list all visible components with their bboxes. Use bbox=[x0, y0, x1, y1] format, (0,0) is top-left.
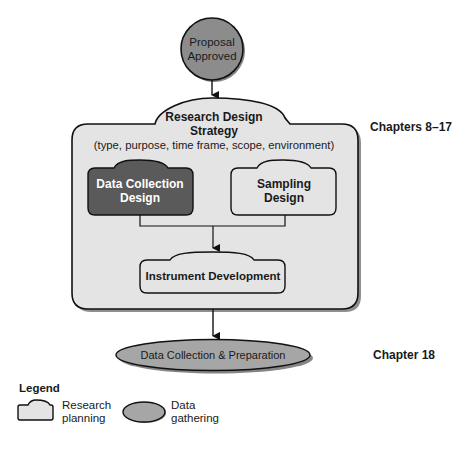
data-collection-preparation-label: Data Collection & Preparation bbox=[141, 349, 286, 361]
sampling-design-line2: Design bbox=[264, 191, 304, 205]
legend-data-line2: gathering bbox=[171, 412, 219, 424]
legend-title: Legend bbox=[19, 382, 60, 394]
data-collection-design-box: Data Collection Design bbox=[88, 160, 193, 215]
legend-research-line1: Research bbox=[62, 399, 111, 411]
legend-item-research-planning: Research planning bbox=[18, 399, 111, 424]
strategy-subtitle: (type, purpose, time frame, scope, envir… bbox=[94, 139, 335, 151]
data-collection-design-line1: Data Collection bbox=[96, 177, 183, 191]
strategy-title-line2: Strategy bbox=[190, 124, 238, 138]
chapter-18-label: Chapter 18 bbox=[373, 348, 435, 362]
strategy-title-line1: Research Design bbox=[165, 110, 262, 124]
data-gathering-ellipse-icon bbox=[123, 402, 165, 422]
legend-item-data-gathering: Data gathering bbox=[123, 399, 219, 424]
legend-data-line1: Data bbox=[171, 399, 196, 411]
data-collection-preparation-node: Data Collection & Preparation bbox=[116, 340, 313, 374]
sampling-design-box: Sampling Design bbox=[231, 160, 336, 215]
proposal-approved-node: Proposal Approved bbox=[181, 18, 245, 82]
proposal-line2: Approved bbox=[187, 50, 236, 62]
sampling-design-line1: Sampling bbox=[257, 177, 311, 191]
chapters-8-17-label: Chapters 8–17 bbox=[370, 120, 452, 134]
legend: Legend Research planning Data gathering bbox=[18, 382, 219, 424]
research-planning-shape-icon bbox=[18, 400, 53, 420]
legend-research-line2: planning bbox=[62, 412, 105, 424]
data-collection-design-line2: Design bbox=[120, 191, 160, 205]
research-design-diagram: Proposal Approved Research Design Strate… bbox=[0, 0, 465, 464]
instrument-development-label: Instrument Development bbox=[146, 270, 281, 282]
proposal-line1: Proposal bbox=[189, 36, 234, 48]
